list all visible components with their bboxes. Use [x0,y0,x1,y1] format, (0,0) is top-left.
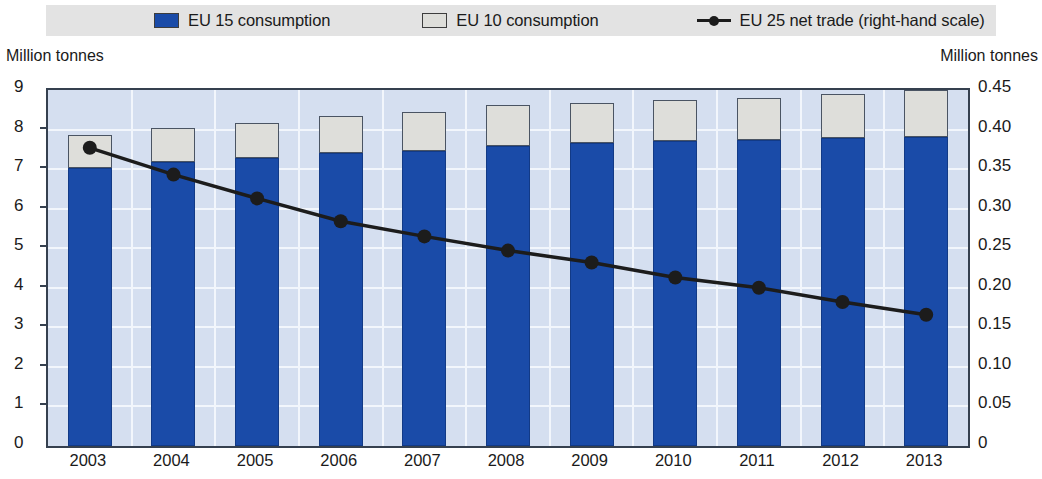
left-axis-unit-label: Million tonnes [6,47,104,65]
left-axis-tick-mark [40,403,48,405]
net-trade-line-series [48,90,968,446]
legend-item-eu10: EU 10 consumption [422,11,598,30]
right-axis-tick-label: 0.20 [978,275,1011,295]
net-trade-marker [250,191,264,205]
x-axis-tick-label: 2013 [906,451,943,470]
x-axis-tick-label: 2005 [237,451,274,470]
right-axis-tick-label: 0.40 [978,117,1011,137]
x-axis-tick-label: 2003 [69,451,106,470]
x-axis-tick-label: 2006 [320,451,357,470]
left-axis-tick-mark [40,245,48,247]
right-axis-tick-label: 0.30 [978,196,1011,216]
net-trade-marker [752,281,766,295]
legend-label-eu10: EU 10 consumption [456,11,598,30]
net-trade-marker [585,256,599,270]
net-trade-marker [167,168,181,182]
net-trade-marker [501,244,515,258]
legend-swatch-gray-icon [422,13,447,28]
left-axis-tick-mark [40,127,48,129]
net-trade-marker [668,271,682,285]
right-axis-tick-label: 0.05 [978,393,1011,413]
right-axis-tick-label: 0 [978,433,987,453]
net-trade-marker [83,141,97,155]
x-axis-tick-label: 2007 [404,451,441,470]
legend-label-net-trade: EU 25 net trade (right-hand scale) [740,11,985,30]
left-axis-tick-mark [40,285,48,287]
chart-plot-area [46,88,970,448]
x-axis-tick-label: 2008 [488,451,525,470]
legend-item-net-trade: EU 25 net trade (right-hand scale) [697,11,985,30]
left-axis-tick-mark [40,324,48,326]
x-axis-tick-label: 2004 [153,451,190,470]
x-axis-tick-label: 2012 [822,451,859,470]
net-trade-polyline [90,148,926,315]
legend-line-dot-icon [697,13,731,28]
right-axis-unit-label: Million tonnes [940,47,1038,65]
x-axis-tick-label: 2010 [655,451,692,470]
legend-label-eu15: EU 15 consumption [188,11,330,30]
net-trade-marker [334,214,348,228]
left-axis-tick-mark [40,364,48,366]
net-trade-marker [919,308,933,322]
x-axis-tick-label: 2009 [571,451,608,470]
chart-legend: EU 15 consumption EU 10 consumption EU 2… [46,5,996,36]
right-axis-tick-label: 0.15 [978,314,1011,334]
right-axis-tick-label: 0.35 [978,156,1011,176]
right-axis-tick-label: 0.25 [978,235,1011,255]
net-trade-marker [836,295,850,309]
legend-swatch-blue-icon [154,13,179,28]
left-axis-tick-mark [40,166,48,168]
right-axis-tick-label: 0.10 [978,354,1011,374]
legend-item-eu15: EU 15 consumption [154,11,330,30]
chart-plot-inner [48,90,968,446]
net-trade-marker [417,229,431,243]
right-axis-tick-label: 0.45 [978,77,1011,97]
left-axis-tick-mark [40,206,48,208]
x-axis-tick-label: 2011 [739,451,774,470]
